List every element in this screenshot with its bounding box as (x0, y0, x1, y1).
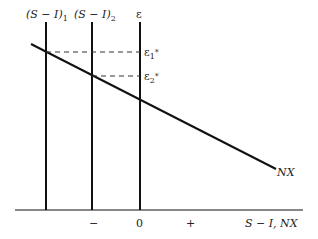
epsilon-axis-label: ε (136, 8, 142, 21)
x-tick-positive: + (186, 217, 195, 230)
s-minus-i-1-label: (S − I)1 (26, 8, 68, 23)
s-minus-i-2-label: (S − I)2 (74, 8, 116, 23)
diagram-canvas: (S − I)1 (S − I)2 ε ε1* ε2* NX − 0 + S −… (0, 0, 318, 239)
epsilon-1-star-label: ε1* (144, 46, 159, 61)
x-tick-zero: 0 (136, 217, 143, 230)
nx-curve-label: NX (276, 166, 296, 179)
nx-curve (31, 44, 276, 169)
epsilon-2-star-label: ε2* (144, 70, 159, 85)
x-axis-label: S − I, NX (245, 217, 299, 230)
x-tick-negative: − (89, 217, 98, 230)
